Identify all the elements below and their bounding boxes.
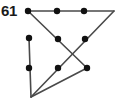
- vertex-dot-low-right: [84, 65, 90, 71]
- vertex-dot-low-center: [55, 65, 61, 71]
- figure-container: 61: [0, 0, 125, 102]
- vertex-dot-mid-right: [82, 36, 88, 42]
- vertex-dot-mid-left: [26, 35, 32, 41]
- vertex-dot-top-right: [81, 8, 87, 14]
- edge-bottom-diagonal: [31, 68, 87, 97]
- vertex-dot-mid-center: [55, 36, 61, 42]
- graph-drawing: [0, 0, 125, 102]
- vertex-dot-top-left: [25, 8, 31, 14]
- graph-edges-group: [28, 11, 114, 97]
- vertex-dot-top-middle: [54, 8, 60, 14]
- vertex-dot-low-left: [26, 65, 32, 71]
- edge-right-diagonal: [31, 11, 114, 97]
